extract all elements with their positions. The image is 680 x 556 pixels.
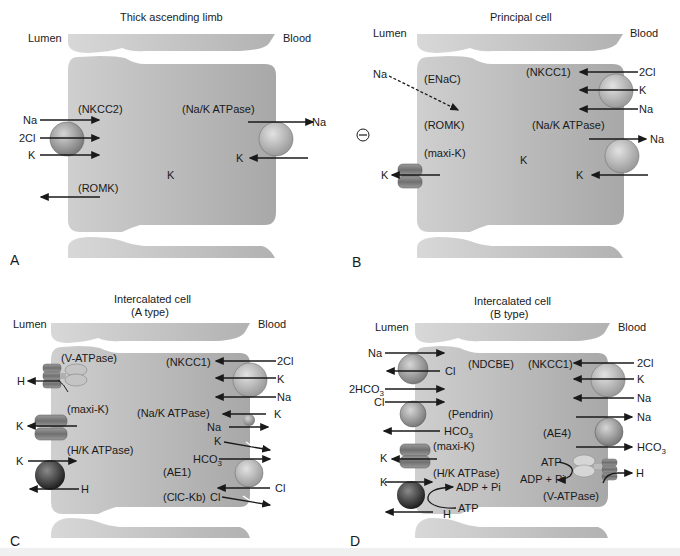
- ion-2cl: 2Cl: [637, 357, 654, 369]
- panel-title-line2: (B type): [490, 308, 529, 321]
- panel-letter: D: [350, 533, 360, 549]
- naka-atpase-label: (Na/K ATPase): [532, 119, 605, 131]
- ion-na-ae4: Na: [637, 411, 651, 423]
- pendrin-transporter-icon: [400, 401, 426, 427]
- nkcc2-label: (NKCC2): [78, 103, 123, 115]
- atp-label-hk: ATP: [458, 502, 479, 514]
- ion-cl-ae: Cl: [275, 482, 285, 494]
- ae1-transporter-icon: [235, 459, 263, 487]
- panel-a-thick-ascending-limb: Thick ascending limb Lumen Blood (NKCC2)…: [0, 0, 340, 278]
- panel-title-line2: (A type): [131, 306, 169, 319]
- intracellular-k: K: [520, 154, 527, 166]
- ion-k-naka: K: [274, 408, 281, 420]
- ion-k-hk: K: [380, 476, 387, 488]
- panel-title-line1: Intercalated cell: [114, 293, 191, 306]
- naka-atpase-icon: [605, 139, 639, 173]
- ion-h-v: H: [636, 467, 644, 479]
- maxi-k-label: (maxi-K): [424, 147, 466, 159]
- ion-na-nk: Na: [637, 392, 651, 404]
- ion-na-lumen: Na: [373, 68, 387, 80]
- lumen-label: Lumen: [28, 32, 62, 44]
- v-atpase-label: (V-ATPase): [543, 490, 599, 502]
- ion-na: Na: [368, 347, 382, 359]
- cell-body: [68, 56, 276, 232]
- ion-k-blood: K: [576, 169, 583, 181]
- lumen-label: Lumen: [13, 318, 47, 330]
- ion-hco3-ae4: HCO3: [637, 441, 666, 455]
- panel-b-principal-cell: Principal cell Lumen Blood Na (ENaC) (NK…: [340, 0, 680, 278]
- naka-atpase-label: (Na/K ATPase): [137, 407, 210, 419]
- panel-letter: A: [10, 252, 19, 268]
- ion-cl-pendrin: Cl: [374, 396, 384, 408]
- ion-k-maxi: K: [380, 452, 387, 464]
- ion-na: Na: [639, 103, 653, 115]
- ion-cl: Cl: [445, 365, 455, 377]
- lumen-label: Lumen: [373, 27, 407, 39]
- nkcc1-label: (NKCC1): [166, 356, 211, 368]
- panel-title: Principal cell: [490, 11, 552, 24]
- adp-pi-label-v: ADP + Pi: [520, 473, 565, 485]
- romk-label: (ROMK): [424, 119, 464, 131]
- nkcc1-label: (NKCC1): [526, 66, 571, 78]
- ion-k-leak: K: [214, 435, 221, 447]
- blood-label: Blood: [618, 321, 646, 333]
- ion-2cl: 2Cl: [19, 132, 36, 144]
- ion-k-nk: K: [637, 373, 644, 385]
- hk-atpase-label: (H/K ATPase): [67, 444, 133, 456]
- panel-letter: B: [352, 254, 361, 270]
- blood-label: Blood: [630, 27, 658, 39]
- ion-k-maxi: K: [16, 420, 23, 432]
- ion-k: K: [277, 373, 284, 385]
- maxi-k-label: (maxi-K): [433, 440, 475, 452]
- panel-title: Thick ascending limb: [120, 11, 223, 24]
- ion-2cl: 2Cl: [277, 355, 294, 367]
- ion-h-hk: H: [81, 483, 89, 495]
- ion-na-naka: Na: [207, 421, 221, 433]
- blood-label: Blood: [258, 318, 286, 330]
- panel-letter: C: [10, 533, 20, 549]
- ion-h-hk: H: [443, 508, 451, 520]
- ion-k-lumen: K: [381, 169, 388, 181]
- nkcc2-transporter-icon: [50, 122, 84, 156]
- ion-na-out: Na: [650, 133, 664, 145]
- adjacent-cell-top: [68, 34, 275, 53]
- romk-label: (ROMK): [78, 182, 118, 194]
- nkcc1-transporter-icon: [591, 363, 625, 397]
- ion-na: Na: [23, 114, 37, 126]
- ae1-label: (AE1): [163, 466, 191, 478]
- nkcc1-label: (NKCC1): [528, 358, 573, 370]
- hk-atpase-icon: [35, 460, 65, 490]
- ion-cl-clc: Cl: [210, 491, 220, 503]
- ion-hco3-pendrin: HCO3: [444, 425, 473, 439]
- pendrin-label: (Pendrin): [448, 408, 493, 420]
- maxi-k-channel-icon: [398, 164, 422, 188]
- adp-pi-label-hk: ADP + Pi: [456, 481, 501, 493]
- v-atpase-label: (V-ATPase): [61, 352, 117, 364]
- nkcc1-transporter-icon: [233, 363, 267, 397]
- panel-d-intercalated-b: Intercalated cell (B type) Lumen Blood N…: [340, 280, 680, 556]
- adjacent-cell-bottom: [68, 237, 275, 258]
- nkcc1-transporter-icon: [599, 74, 633, 108]
- enac-label: (ENaC): [424, 73, 461, 85]
- clc-kb-label: (ClC-Kb): [163, 491, 206, 503]
- ion-na-out: Na: [312, 116, 326, 128]
- ion-k-hk: K: [16, 455, 23, 467]
- ndcbe-transporter-icon: [398, 354, 428, 384]
- ion-na: Na: [277, 391, 291, 403]
- maxi-k-label: (maxi-K): [67, 403, 109, 415]
- panel-c-intercalated-a: Intercalated cell (A type) Lumen Blood (…: [0, 280, 340, 556]
- ion-h-lumen: H: [17, 375, 25, 387]
- ae4-label: (AE4): [543, 427, 571, 439]
- cell-diagram-b: [340, 0, 680, 278]
- intracellular-k: K: [167, 169, 174, 181]
- naka-atpase-label: (Na/K ATPase): [182, 103, 255, 115]
- ion-k: K: [639, 84, 646, 96]
- atp-label-v: ATP: [541, 456, 562, 468]
- hk-atpase-label: (H/K ATPase): [433, 467, 499, 479]
- bottom-border-strip: [0, 548, 680, 556]
- maxi-k-channel-icon: [400, 444, 430, 468]
- panel-title-line1: Intercalated cell: [474, 295, 551, 308]
- lumen-label: Lumen: [375, 321, 409, 333]
- ion-2cl: 2Cl: [639, 66, 656, 78]
- ndcbe-label: (NDCBE): [468, 358, 514, 370]
